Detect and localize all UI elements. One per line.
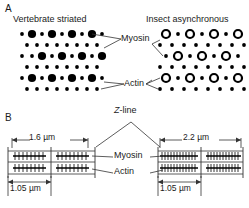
panel-b-actin-label: Actin [114,167,134,176]
vertebrate-striated-title: Vertebrate striated [13,15,87,24]
vertebrate-lattice [20,30,106,91]
insect-sarcomere-length: 2.2 µm [183,133,209,142]
panel-a-actin-label: Actin [124,79,144,88]
vertebrate-sarcomere-length: 1.6 µm [29,133,55,142]
figure-graphics [0,0,249,208]
figure-muscle-filament-lattice: A Vertebrate striated Insect asynchronou… [0,0,249,208]
panel-a-letter: A [5,4,12,14]
panel-a-myosin-label: Myosin [121,34,150,43]
insect-lattice [158,30,246,91]
z-line-label: Z-line [114,106,137,115]
panel-b-myosin-label: Myosin [114,151,143,160]
insect-thick-filament-length: 1.05 µm [160,184,191,193]
panel-b-letter: B [5,113,12,123]
insect-asynchronous-title: Insect asynchronous [146,15,229,24]
vertebrate-thick-filament-length: 1.05 µm [10,184,41,193]
z-line-suffix: -line [120,105,137,115]
